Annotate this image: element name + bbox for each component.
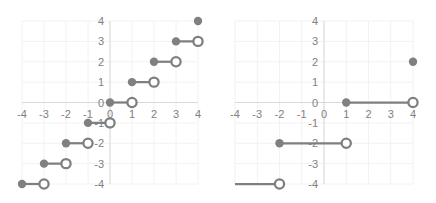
y-tick-label: -4 [94,178,104,190]
x-tick-label: -3 [39,108,49,120]
y-tick-label: 1 [312,76,318,88]
step-segment [106,98,137,107]
x-tick-label: 1 [343,108,349,120]
closed-dot-marker [150,58,158,66]
step-segment [18,179,49,188]
x-tick-label: 2 [151,108,157,120]
closed-dot-marker [409,58,417,66]
y-tick-label: 2 [312,56,318,68]
step-segment [40,159,71,168]
x-tick-label: -1 [83,108,93,120]
closed-dot-marker [128,78,136,86]
x-tick-label: 3 [388,108,394,120]
y-tick-label: 4 [312,15,318,27]
step-segment [62,139,93,148]
x-tick-label: 4 [410,108,416,120]
y-tick-label: 3 [98,35,104,47]
step-segment [150,57,181,66]
y-tick-label: -3 [94,158,104,170]
y-tick-label: -2 [94,137,104,149]
open-circle-marker [193,37,202,46]
x-tick-label: -3 [252,108,262,120]
open-circle-marker [342,139,351,148]
open-circle-marker [105,118,114,127]
open-circle-marker [83,139,92,148]
step-segment [235,179,284,188]
open-circle-marker [171,57,180,66]
open-circle-marker [127,98,136,107]
x-tick-label: 3 [173,108,179,120]
open-circle-marker [39,179,48,188]
x-tick-labels: -4-3-2-101234 [230,108,416,120]
x-tick-label: -4 [230,108,240,120]
x-tick-label: 0 [321,108,327,120]
y-tick-label: 3 [312,35,318,47]
x-tick-label: -2 [61,108,71,120]
x-tick-label: 2 [365,108,371,120]
closed-dot-marker [342,98,350,106]
y-tick-label: -3 [308,158,318,170]
y-tick-label: 4 [98,15,104,27]
open-circle-marker [149,78,158,87]
y-tick-label: 2 [98,56,104,68]
y-tick-label: 0 [312,97,318,109]
x-tick-label: 4 [195,108,201,120]
x-tick-label: 1 [129,108,135,120]
y-tick-label: -4 [308,178,318,190]
closed-dot-marker [172,37,180,45]
y-tick-label: 1 [98,76,104,88]
y-tick-label: 0 [98,97,104,109]
y-tick-label: -1 [308,117,318,129]
closed-dot-marker [62,139,70,147]
x-tick-label: -2 [275,108,285,120]
closed-dot-marker [40,159,48,167]
step-segment [172,37,203,46]
left-step-function-chart: -4-3-2-10123443210-1-2-3-4 [17,15,202,190]
step-segment [128,78,159,87]
closed-dot-marker [18,180,26,188]
x-tick-label: -1 [297,108,307,120]
closed-dot-marker [194,17,202,25]
closed-dot-marker [275,139,283,147]
open-circle-marker [275,179,284,188]
right-step-function-chart: -4-3-2-10123443210-1-2-3-4 [230,15,417,190]
chart-canvas: -4-3-2-10123443210-1-2-3-4 -4-3-2-101234… [0,0,436,203]
closed-dot-marker [106,98,114,106]
x-tick-label: -4 [17,108,27,120]
closed-dot-marker [84,119,92,127]
step-segment [342,98,418,107]
open-circle-marker [408,98,417,107]
open-circle-marker [61,159,70,168]
